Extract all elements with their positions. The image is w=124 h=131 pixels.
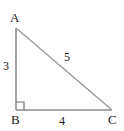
side-length-label-ab: 3 — [3, 60, 9, 72]
side-length-label-ac: 5 — [64, 51, 70, 63]
right-triangle-figure: A B C 3 5 4 — [0, 0, 124, 131]
vertex-label-c: C — [108, 113, 117, 126]
side-ac-hypotenuse-line — [16, 28, 112, 110]
right-angle-marker-icon — [16, 102, 24, 110]
vertex-label-a: A — [10, 11, 19, 24]
vertex-label-b: B — [11, 113, 20, 126]
side-length-label-bc: 4 — [59, 115, 65, 127]
